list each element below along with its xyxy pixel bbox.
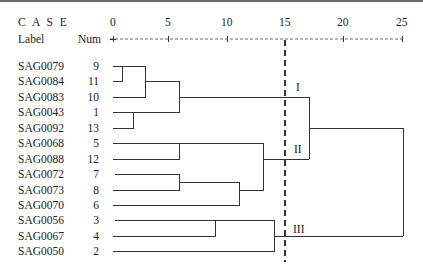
tick-25: 25 — [396, 16, 408, 28]
leaf-labels: SAG0079 SAG0084 SAG0083 SAG0043 SAG0092 … — [18, 60, 64, 257]
dendrogram: C A S E Label Num 0 5 10 15 20 25 SAG007… — [0, 0, 423, 277]
leaf-num: 8 — [93, 184, 99, 196]
case-header: C A S E — [18, 16, 69, 28]
leaf-label: SAG0068 — [18, 137, 64, 149]
leaf-label: SAG0072 — [18, 168, 64, 180]
cluster-label-II: II — [294, 143, 302, 155]
leaf-num: 7 — [93, 168, 99, 180]
leaf-num: 11 — [88, 75, 99, 87]
leaf-numbers: 9 11 10 1 13 5 12 7 8 6 3 4 2 — [88, 60, 100, 257]
x-axis-tick-labels: 0 5 10 15 20 25 — [110, 16, 408, 28]
tick-10: 10 — [221, 16, 233, 28]
num-column-header: Num — [78, 33, 101, 45]
leaf-label: SAG0067 — [18, 230, 64, 242]
leaf-label: SAG0056 — [18, 214, 64, 226]
leaf-num: 12 — [88, 153, 100, 165]
leaf-num: 3 — [93, 214, 99, 226]
leaf-label: SAG0050 — [18, 245, 64, 257]
tick-20: 20 — [337, 16, 349, 28]
leaf-num: 13 — [88, 122, 100, 134]
leaf-label: SAG0084 — [18, 75, 64, 87]
leaf-num: 2 — [93, 245, 99, 257]
cluster-label-III: III — [293, 223, 305, 235]
leaf-label: SAG0070 — [18, 199, 64, 211]
leaf-num: 10 — [88, 91, 100, 103]
leaf-num: 5 — [93, 137, 99, 149]
label-column-header: Label — [18, 33, 44, 45]
leaf-label: SAG0043 — [18, 106, 64, 118]
leaf-label: SAG0092 — [18, 122, 64, 134]
leaf-label: SAG0083 — [18, 91, 64, 103]
leaf-num: 9 — [93, 60, 99, 72]
tick-5: 5 — [165, 16, 171, 28]
leaf-num: 6 — [93, 199, 99, 211]
tick-15: 15 — [279, 16, 291, 28]
tick-0: 0 — [110, 16, 116, 28]
leaf-num: 4 — [93, 230, 99, 242]
cluster-label-I: I — [296, 81, 300, 93]
leaf-label: SAG0088 — [18, 153, 64, 165]
x-axis — [110, 36, 405, 42]
leaf-label: SAG0073 — [18, 184, 64, 196]
leaf-label: SAG0079 — [18, 60, 64, 72]
leaf-num: 1 — [93, 106, 99, 118]
dendrogram-branches — [113, 66, 403, 251]
